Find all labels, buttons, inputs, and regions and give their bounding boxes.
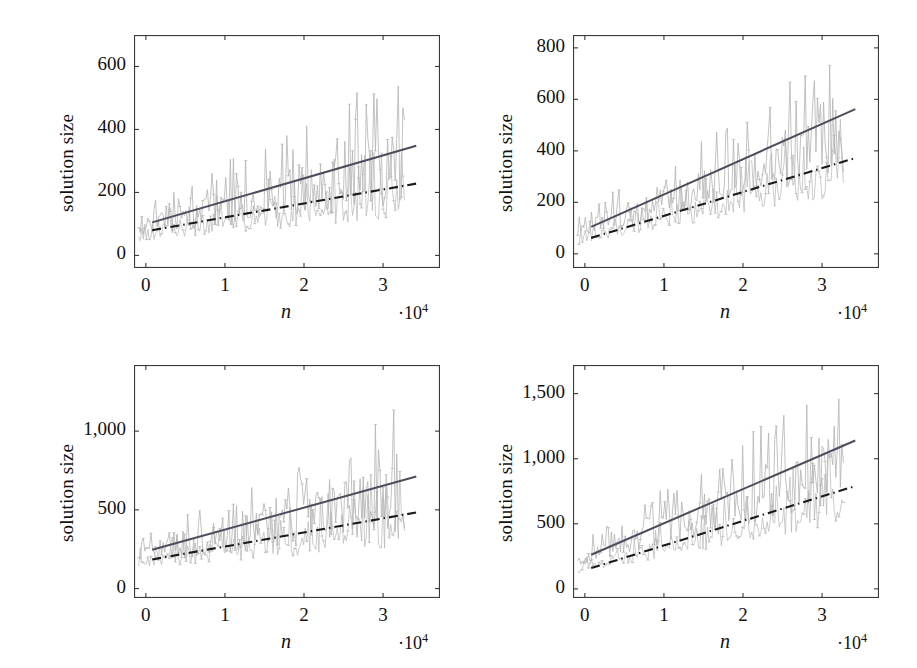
panel-bottom-left (134, 365, 440, 598)
panel-bottom-right (573, 365, 879, 598)
panel-top-left-ytick-label: 0 (117, 242, 127, 264)
panel-top-left-x-axis-exponent: ·104 (398, 301, 428, 324)
panel-bottom-left-xtick-label: 1 (205, 604, 245, 626)
panel-top-left-exponent-base: ·10 (398, 303, 422, 323)
panel-bottom-right-plot (573, 365, 879, 598)
panel-top-right-ytick-label: 200 (537, 189, 566, 211)
panel-bottom-right-x-axis-title: n (720, 630, 730, 653)
panel-bottom-left-plot (134, 365, 440, 598)
panel-top-left-ytick-label: 200 (98, 179, 127, 201)
panel-bottom-left-xtick-label: 2 (284, 604, 324, 626)
panel-top-right-xtick-label: 3 (802, 274, 842, 296)
panel-bottom-left-x-axis-exponent: ·104 (398, 631, 428, 654)
panel-top-right-noisy-upper-samples-markers (576, 65, 842, 235)
panel-top-right-ytick-label: 800 (537, 35, 566, 57)
panel-top-right-ytick-label: 600 (537, 86, 566, 108)
panel-top-left-xtick-label: 1 (205, 274, 245, 296)
panel-bottom-right-noisy-upper-samples-markers (587, 426, 844, 554)
panel-bottom-left-exponent-power: 4 (422, 631, 428, 645)
panel-bottom-left-y-axis-title: solution size (56, 443, 78, 541)
panel-bottom-left-noisy-upper-samples-markers (137, 410, 395, 560)
panel-bottom-right-ytick-label: 500 (537, 511, 566, 533)
panel-bottom-right-noisy-lower-samples (578, 454, 844, 573)
panel-bottom-left-xtick-label: 0 (126, 604, 166, 626)
panel-top-left-exponent-power: 4 (422, 301, 428, 315)
panel-bottom-left-xtick-label: 3 (363, 604, 403, 626)
panel-top-left-ytick-label: 400 (98, 116, 127, 138)
panel-top-right-plot (573, 35, 879, 268)
panel-bottom-left-ytick-label: 0 (117, 576, 127, 598)
panel-bottom-right-xtick-label: 0 (565, 604, 605, 626)
panel-top-left-x-axis-title: n (281, 300, 291, 323)
panel-top-left-plot (134, 35, 440, 268)
panel-bottom-right-ytick-label: 1,000 (522, 446, 565, 468)
panel-bottom-left-exponent-base: ·10 (398, 633, 422, 653)
panel-bottom-right-xtick-label: 2 (723, 604, 763, 626)
panel-bottom-right-xtick-label: 3 (802, 604, 842, 626)
panel-top-right-exponent-base: ·10 (837, 303, 861, 323)
panel-top-left-y-axis-title: solution size (56, 113, 78, 211)
panel-top-left-xtick-label: 2 (284, 274, 324, 296)
panel-bottom-right-ytick-label: 1,500 (522, 381, 565, 403)
panel-bottom-left-ytick-label: 500 (98, 497, 127, 519)
panel-top-right-xtick-label: 0 (565, 274, 605, 296)
panel-top-right-y-axis-title: solution size (495, 113, 517, 211)
figure-canvas: 02004006000123solution sizen·10402004006… (0, 0, 917, 668)
panel-top-right-x-axis-exponent: ·104 (837, 301, 867, 324)
panel-top-right-ytick-label: 400 (537, 138, 566, 160)
panel-top-right-exponent-power: 4 (861, 301, 867, 315)
panel-bottom-right-ytick-label: 0 (556, 576, 566, 598)
panel-top-right-xtick-label: 1 (644, 274, 684, 296)
panel-top-right-noisy-lower-samples (578, 119, 844, 244)
panel-top-right-ytick-label: 0 (556, 241, 566, 263)
panel-top-left-ytick-label: 600 (98, 53, 127, 75)
panel-top-left (134, 35, 440, 268)
panel-bottom-right-xtick-label: 1 (644, 604, 684, 626)
panel-top-right (573, 35, 879, 268)
panel-top-right-xtick-label: 2 (723, 274, 763, 296)
panel-bottom-right-y-axis-title: solution size (495, 443, 517, 541)
panel-bottom-right-frame (574, 366, 879, 598)
panel-top-left-xtick-label: 3 (363, 274, 403, 296)
panel-bottom-left-x-axis-title: n (281, 630, 291, 653)
panel-top-left-xtick-label: 0 (126, 274, 166, 296)
panel-top-right-lower-trend-dashdot (591, 158, 855, 238)
panel-bottom-right-exponent-base: ·10 (837, 633, 861, 653)
panel-top-right-upper-trend-solid (591, 109, 855, 227)
panel-bottom-right-exponent-power: 4 (861, 631, 867, 645)
panel-top-left-noisy-lower-samples (139, 151, 405, 241)
panel-top-right-x-axis-title: n (720, 300, 730, 323)
panel-bottom-left-ytick-label: 1,000 (83, 418, 126, 440)
panel-bottom-right-noisy-upper-samples (578, 399, 844, 564)
panel-top-left-noisy-upper-samples-markers (137, 93, 403, 233)
panel-bottom-right-x-axis-exponent: ·104 (837, 631, 867, 654)
